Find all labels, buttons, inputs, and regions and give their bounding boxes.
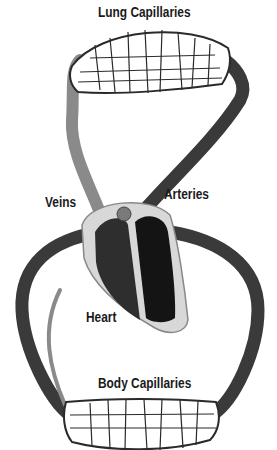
label-lung-capillaries: Lung Capillaries [98,4,191,20]
body-capillaries [64,399,219,450]
label-veins: Veins [45,194,76,210]
lung-capillaries [70,30,230,93]
heart-valve [117,207,131,221]
label-arteries: Arteries [164,186,209,202]
label-body-capillaries: Body Capillaries [98,375,191,391]
label-heart: Heart [86,309,116,325]
